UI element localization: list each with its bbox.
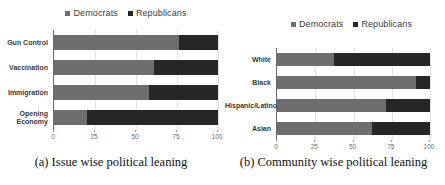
x-tick-label: 75 [172, 133, 179, 140]
bar-segment-democrats [277, 99, 386, 112]
category-label: Opening Economy [2, 109, 48, 125]
bar-segments [277, 76, 430, 89]
bar-segments [277, 53, 430, 66]
legend-swatch-icon [65, 11, 70, 16]
bar-segment-democrats [54, 60, 154, 75]
bar-row-vaccination: Vaccination [54, 60, 218, 75]
bar-row-white: White [277, 53, 430, 66]
legend-item-democrats: Democrats [291, 19, 343, 29]
x-axis-ticks: 0255075100 [276, 141, 429, 151]
x-tick-label: 25 [90, 133, 97, 140]
x-tick-mark [53, 130, 54, 132]
x-tick-label: 100 [424, 143, 435, 150]
x-axis-ticks: 0255075100 [53, 131, 217, 141]
bar-segment-republicans [416, 76, 430, 89]
x-tick-label: 25 [311, 143, 318, 150]
bar-row-black: Black [277, 76, 430, 89]
bar-segment-republicans [154, 60, 218, 75]
x-tick-mark [94, 130, 95, 132]
x-tick-label: 50 [131, 133, 138, 140]
bar-row-hispanic-latino: Hispanic/Latino [277, 99, 430, 112]
bar-segment-republicans [334, 53, 430, 66]
legend-swatch-icon [353, 22, 358, 27]
bar-segment-republicans [386, 99, 430, 112]
legend-item-republicans: Republicans [353, 19, 412, 29]
category-label: Vaccination [2, 63, 48, 71]
bar-segment-republicans [149, 85, 218, 100]
x-tick-mark [314, 140, 315, 142]
x-tick-mark [217, 130, 218, 132]
legend: DemocratsRepublicans [0, 8, 222, 18]
bar-row-asian: Asian [277, 122, 430, 135]
grid-line [218, 30, 219, 130]
x-tick-label: 0 [274, 143, 278, 150]
legend-label: Democrats [299, 19, 343, 29]
plot-area: WhiteBlackHispanic/LatinoAsian [276, 48, 430, 140]
legend-swatch-icon [128, 11, 133, 16]
x-tick-mark [176, 130, 177, 132]
bar-segment-democrats [54, 85, 149, 100]
bar-segments [54, 85, 218, 100]
bar-segment-republicans [372, 122, 430, 135]
bar-segment-democrats [277, 122, 372, 135]
bar-segments [277, 122, 430, 135]
category-label: Gun Control [2, 38, 48, 46]
bar-rows: Gun ControlVaccinationImmigrationOpening… [54, 30, 218, 130]
x-tick-mark [429, 140, 430, 142]
x-tick-mark [135, 130, 136, 132]
bar-segments [54, 35, 218, 50]
x-tick-mark [391, 140, 392, 142]
legend-label: Republicans [136, 8, 187, 18]
legend: DemocratsRepublicans [222, 19, 445, 29]
legend-label: Republicans [361, 19, 412, 29]
bar-segments [277, 99, 430, 112]
legend-item-democrats: Democrats [65, 8, 117, 18]
bar-segment-democrats [277, 76, 416, 89]
bar-rows: WhiteBlackHispanic/LatinoAsian [277, 48, 430, 140]
x-tick-mark [276, 140, 277, 142]
chart-issue-political-leaning: DemocratsRepublicans Gun ControlVaccinat… [0, 0, 222, 185]
legend-item-republicans: Republicans [128, 8, 187, 18]
plot-area: Gun ControlVaccinationImmigrationOpening… [53, 30, 218, 130]
x-tick-label: 100 [212, 133, 223, 140]
bar-segments [54, 110, 218, 125]
x-tick-mark [353, 140, 354, 142]
figure-political-leaning: DemocratsRepublicans Gun ControlVaccinat… [0, 0, 445, 185]
bar-segment-democrats [277, 53, 334, 66]
category-label: Black [225, 78, 271, 86]
grid-line [430, 48, 431, 140]
caption-b: (b) Community wise political leaning [222, 155, 445, 170]
bar-segment-democrats [54, 35, 179, 50]
bar-segment-republicans [179, 35, 218, 50]
bar-row-gun-control: Gun Control [54, 35, 218, 50]
legend-swatch-icon [291, 22, 296, 27]
x-tick-label: 50 [349, 143, 356, 150]
x-tick-label: 0 [51, 133, 55, 140]
category-label: Hispanic/Latino [225, 101, 271, 109]
legend-label: Democrats [73, 8, 117, 18]
chart-community-political-leaning: DemocratsRepublicans WhiteBlackHispanic/… [222, 0, 445, 185]
category-label: Asian [225, 124, 271, 132]
bar-segment-democrats [54, 110, 87, 125]
bar-segment-republicans [87, 110, 218, 125]
caption-a: (a) Issue wise political leaning [0, 155, 222, 170]
x-tick-label: 75 [387, 143, 394, 150]
category-label: Immigration [2, 88, 48, 96]
bar-segments [54, 60, 218, 75]
bar-row-immigration: Immigration [54, 85, 218, 100]
category-label: White [225, 55, 271, 63]
bar-row-opening-economy: Opening Economy [54, 110, 218, 125]
